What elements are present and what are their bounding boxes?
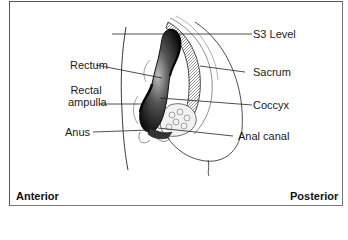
leader-sacrum: [200, 66, 245, 72]
label-rectal-ampulla-line1: Rectal: [68, 84, 104, 96]
label-rectum: Rectum: [70, 59, 108, 71]
label-s3-level: S3 Level: [253, 28, 296, 40]
label-anal-canal: Anal canal: [238, 130, 289, 142]
label-anus: Anus: [65, 126, 90, 138]
orientation-posterior: Posterior: [290, 190, 338, 202]
label-coccyx: Coccyx: [253, 99, 289, 111]
orientation-anterior: Anterior: [16, 190, 59, 202]
label-rectal-ampulla-line2: ampulla: [68, 96, 104, 108]
leader-anus: [93, 130, 150, 132]
label-rectal-ampulla: Rectal ampulla: [68, 84, 104, 108]
label-sacrum: Sacrum: [253, 66, 291, 78]
anterior-wall-contour: [121, 27, 128, 170]
